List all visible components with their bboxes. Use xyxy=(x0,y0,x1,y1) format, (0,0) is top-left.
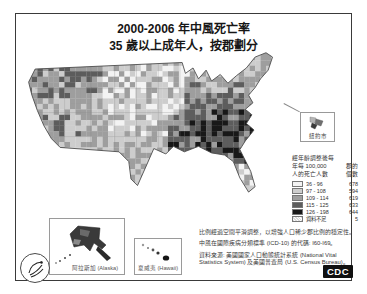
legend-swatch xyxy=(292,181,303,188)
legend-range: 資料不足 xyxy=(306,215,344,223)
alaska-inset-label: 阿拉斯加 (Alaska) xyxy=(50,264,124,272)
legend-count: 594 xyxy=(344,188,358,194)
map-legend: 經年齡調整後每 年每 100,000 郡的 人的死亡人數 個數 36 - 96 … xyxy=(292,155,358,222)
legend-swatch xyxy=(292,202,303,209)
legend-title-line-2: 年每 100,000 xyxy=(292,163,327,171)
hhs-logo xyxy=(20,253,50,283)
legend-swatch-insufficient-data xyxy=(292,216,303,223)
legend-row: 115 - 125 633 xyxy=(292,201,358,208)
legend-range: 109 - 114 xyxy=(306,195,344,201)
legend-swatch xyxy=(292,188,303,195)
hawaii-inset-box: 夏威夷 (Hawaii) xyxy=(134,238,182,275)
legend-swatch xyxy=(292,209,303,216)
legend-header: 經年齡調整後每 年每 100,000 郡的 人的死亡人數 個數 xyxy=(292,155,358,178)
legend-rows: 36 - 96 678 97 - 108 594 109 - 114 619 1… xyxy=(292,180,358,222)
legend-count-header-line-1: 郡的 xyxy=(346,163,358,171)
figure-frame: 2000-2006 年中風死亡率 35 歲以上成年人，按郡劃分 xyxy=(15,13,352,281)
footnote-icd-codes: 中風在國際疾病分類標準 (ICD-10) 的代碼: I60-I69。 xyxy=(199,240,355,247)
nyc-mini-map xyxy=(305,114,330,132)
legend-range: 36 - 96 xyxy=(306,181,344,187)
legend-count: 633 xyxy=(344,202,358,208)
alaska-inset-box: 阿拉斯加 (Alaska) xyxy=(49,218,125,275)
legend-count: 678 xyxy=(344,181,358,187)
legend-count: 644 xyxy=(344,209,358,215)
legend-count: 619 xyxy=(344,195,358,201)
hhs-eagle-icon xyxy=(21,254,49,282)
legend-range: 115 - 125 xyxy=(306,202,344,208)
legend-row: 資料不足 5 xyxy=(292,215,358,222)
footnote-smoothing: 比例經過空間平滑調整，以增強人口稀少郡比例的穩定性。 xyxy=(199,229,355,236)
nyc-callout-box: 紐約市 xyxy=(300,112,335,142)
nyc-callout-label: 紐約市 xyxy=(301,132,334,140)
hawaii-mini-map xyxy=(135,239,179,265)
legend-title-line-1: 經年齡調整後每 xyxy=(292,155,358,163)
legend-range: 97 - 108 xyxy=(306,188,344,194)
title-line-1: 2000-2006 年中風死亡率 xyxy=(16,21,351,38)
legend-title-line-3: 人的死亡人數 xyxy=(292,171,328,179)
legend-row: 36 - 96 678 xyxy=(292,180,358,187)
legend-row: 97 - 108 594 xyxy=(292,187,358,194)
legend-swatch xyxy=(292,195,303,202)
hawaii-inset-label: 夏威夷 (Hawaii) xyxy=(135,264,181,272)
figure-root: 2000-2006 年中風死亡率 35 歲以上成年人，按郡劃分 xyxy=(0,0,367,294)
us-county-choropleth-map xyxy=(21,46,315,238)
legend-count-header-line-2: 個數 xyxy=(346,171,358,179)
county-shade-cells xyxy=(21,49,315,234)
legend-row: 109 - 114 619 xyxy=(292,194,358,201)
legend-count: 5 xyxy=(344,216,358,222)
cdc-logo: CDC xyxy=(323,265,353,278)
alaska-mini-map xyxy=(50,219,122,265)
